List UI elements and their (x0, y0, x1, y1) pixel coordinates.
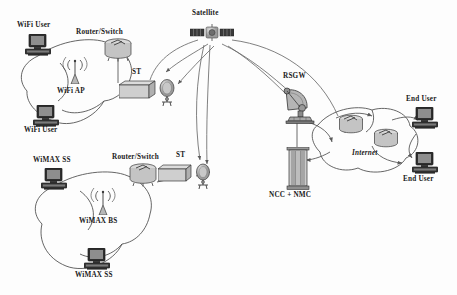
wimax-ss-bottom-label: WiMAX SS (75, 272, 113, 279)
network-diagram-canvas: Satellite WiFi User WiFi User (0, 0, 457, 295)
wimax-ss-top-label: WiMAX SS (33, 157, 71, 164)
satellite-label: Satellite (192, 10, 219, 17)
wifi-user-bottom-label: WiFi User (24, 127, 57, 134)
st-wimax-terminal-dish-icon (158, 163, 218, 197)
ncc-nmc-server-rack-icon (285, 147, 311, 195)
end-user-top-label: End User (406, 96, 437, 103)
satellite-icon (190, 24, 234, 46)
ncc-nmc-label: NCC + NMC (269, 192, 311, 199)
st-wifi-terminal-dish-icon (119, 79, 183, 113)
wifi-user-top-label: WiFi User (17, 22, 50, 29)
rsgw-label: RSGW (283, 73, 306, 80)
router-switch-wimax-icon (126, 163, 160, 191)
router-switch-wifi-icon (101, 38, 135, 66)
internet-router-a-icon (336, 114, 366, 140)
rsgw-ground-station-icon (280, 84, 316, 128)
end-user-bottom-label: End User (403, 176, 434, 183)
router-switch-wifi-label: Router/Switch (76, 29, 123, 36)
router-switch-wimax-label: Router/Switch (112, 154, 159, 161)
st-wimax-label: ST (176, 152, 185, 159)
end-user-top-computer-icon (412, 107, 438, 133)
wimax-bs-antenna-icon (88, 183, 118, 219)
wimax-bs-label: WiMAX BS (79, 218, 117, 225)
wifi-ap-antenna-icon (60, 52, 90, 88)
wimax-ss-top-computer-icon (41, 168, 67, 194)
st-wifi-label: ST (132, 69, 141, 76)
internet-label: Internet (352, 150, 378, 157)
wifi-ap-label: WiFi AP (57, 88, 85, 95)
wifi-user-top-computer-icon (25, 34, 51, 60)
